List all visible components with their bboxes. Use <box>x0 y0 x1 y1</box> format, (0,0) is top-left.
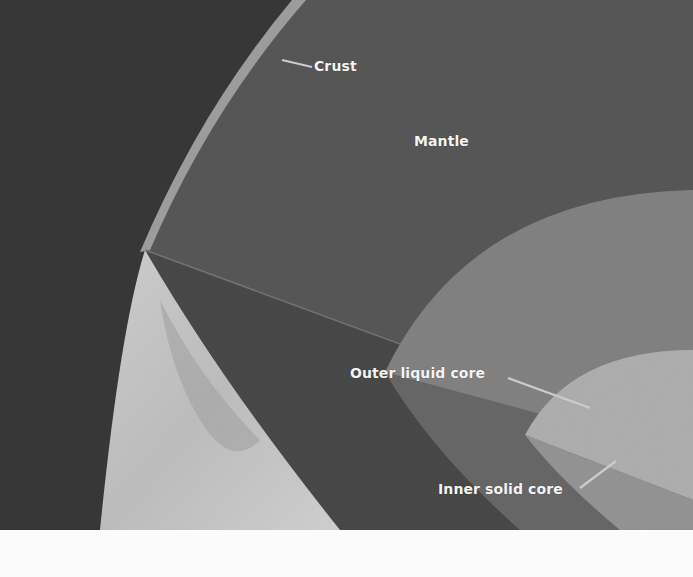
outer-core-label: Outer liquid core <box>350 365 485 381</box>
earth-interior-diagram: Crust Mantle Outer liquid core Inner sol… <box>0 0 693 577</box>
page-margin <box>0 530 693 577</box>
mantle-label: Mantle <box>414 133 469 149</box>
crust-label: Crust <box>314 58 357 74</box>
inner-core-label: Inner solid core <box>438 481 563 497</box>
cutaway-illustration <box>0 0 693 577</box>
